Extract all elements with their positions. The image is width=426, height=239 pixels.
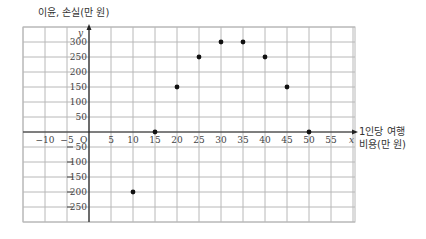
y-axis-title: 이윤, 손실(만 원) [38, 7, 109, 18]
scatter-chart: −10−551015202530354045505530025020015010… [0, 0, 426, 239]
x-tick-label: 55 [325, 135, 337, 145]
y-tick-label: 250 [70, 52, 87, 62]
x-tick-label: 45 [281, 135, 293, 145]
data-point [285, 85, 290, 90]
y-tick-label: 150 [70, 82, 87, 92]
y-tick-label: 50 [76, 112, 88, 122]
data-point [175, 85, 180, 90]
origin-label: O [80, 135, 87, 145]
data-point [153, 130, 158, 135]
data-point [241, 40, 246, 45]
x-axis-title-line1: 1인당 여행 [359, 126, 405, 137]
x-tick-label: 25 [193, 135, 205, 145]
x-axis-title-line2: 비용(만 원) [359, 139, 406, 150]
y-axis-letter: y [77, 28, 84, 38]
y-tick-label: 200 [70, 67, 87, 77]
x-tick-label: 20 [171, 135, 183, 145]
y-tick-label: 300 [70, 37, 87, 47]
y-tick-label: 100 [70, 97, 87, 107]
x-tick-label: 40 [259, 135, 271, 145]
data-point [307, 130, 312, 135]
x-tick-label: −10 [36, 135, 55, 145]
x-tick-label: 15 [149, 135, 161, 145]
x-tick-label: 35 [237, 135, 249, 145]
x-tick-label: 5 [108, 135, 114, 145]
tick-labels: −10−551015202530354045505530025020015010… [36, 37, 337, 212]
x-tick-label: 10 [127, 135, 139, 145]
x-tick-label: 50 [303, 135, 315, 145]
data-point [219, 40, 224, 45]
x-tick-label: −5 [60, 135, 74, 145]
data-point [131, 190, 136, 195]
x-axis-letter: x [349, 135, 354, 145]
data-point [197, 55, 202, 60]
data-point [263, 55, 268, 60]
x-tick-label: 30 [215, 135, 227, 145]
